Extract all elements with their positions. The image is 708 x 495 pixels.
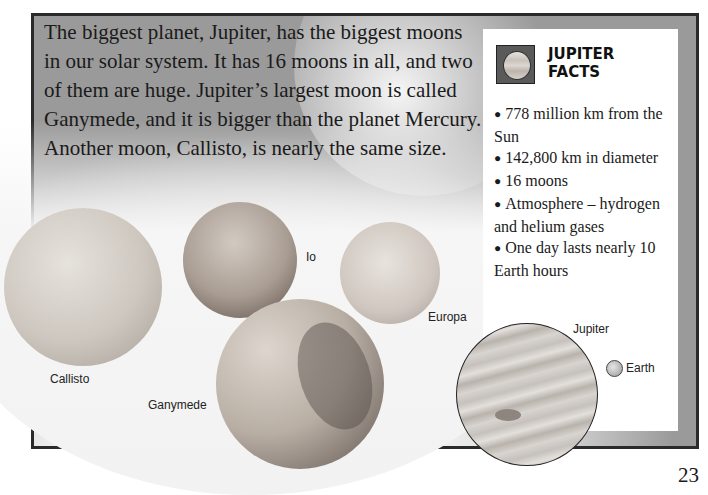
intro-paragraph: The biggest planet, Jupiter, has the big… (44, 18, 484, 163)
fact-item: 16 moons (494, 170, 679, 193)
great-red-spot (495, 409, 521, 421)
facts-title-line2: FACTS (548, 63, 614, 81)
jupiter-image (456, 323, 598, 466)
facts-list: 778 million km from the Sun 142,800 km i… (494, 103, 679, 281)
ganymede-image (216, 299, 384, 469)
fact-item: 778 million km from the Sun (494, 103, 679, 147)
io-label: Io (306, 250, 316, 264)
jupiter-planet-icon (496, 45, 535, 84)
europa-label: Europa (428, 310, 467, 324)
earth-icon (606, 360, 623, 377)
facts-title-line1: JUPITER (548, 45, 614, 63)
fact-item: Atmosphere – hydrogen and helium gases (494, 193, 679, 237)
callisto-label: Callisto (50, 372, 89, 386)
jupiter-label: Jupiter (573, 322, 609, 336)
europa-image (340, 222, 440, 324)
jupiter-icon-globe (503, 51, 531, 80)
earth-label: Earth (626, 361, 655, 375)
fact-item: One day lasts nearly 10 Earth hours (494, 237, 679, 281)
fact-item: 142,800 km in diameter (494, 147, 679, 170)
facts-title: JUPITER FACTS (548, 45, 614, 81)
page-number: 23 (678, 463, 699, 488)
ganymede-label: Ganymede (148, 398, 207, 412)
callisto-image (4, 208, 162, 366)
